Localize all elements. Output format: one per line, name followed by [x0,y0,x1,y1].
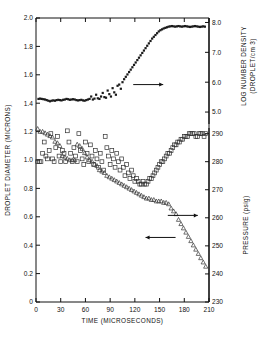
data-point-filled-square [121,81,123,83]
series-droplet-diameter [36,127,208,269]
right-bottom-tick-label: 290 [212,130,223,137]
data-point-filled-square [120,88,122,90]
data-point-filled-square [148,42,150,44]
left-tick-label: 0 [29,298,33,305]
series-log-number-density [37,25,206,102]
data-point-filled-square [93,98,95,100]
data-point-filled-square [133,64,135,66]
data-point-open-square [105,146,109,150]
data-point-filled-square [115,94,117,96]
data-point-filled-square [90,95,92,97]
data-point-open-square [59,160,63,164]
data-point-open-square [112,157,116,161]
left-tick-label: 0.6 [24,213,33,220]
arrow-to-left-axis-diameter-head [194,213,198,217]
data-point-filled-square [135,61,137,63]
right-bottom-axis-title: PRESSURE (psig) [242,196,250,255]
data-point-filled-square [130,69,132,71]
arrow-to-right-axis-pressure [146,235,176,239]
data-point-filled-square [128,71,130,73]
data-point-open-square [103,135,107,139]
left-tick-label: 0.2 [24,270,33,277]
data-point-filled-square [141,52,143,54]
right-top-tick-label: 8.0 [212,19,221,26]
data-point-open-square [93,149,97,153]
data-point-open-square [80,157,84,161]
data-point-open-square [47,149,51,153]
data-point-open-triangle [171,209,175,213]
right-bottom-tick-label: 250 [212,242,223,249]
data-point-open-triangle [184,230,188,234]
left-tick-label: 0.8 [24,185,33,192]
data-point-filled-square [88,98,90,100]
data-point-filled-square [146,45,148,47]
data-point-filled-square [118,83,120,85]
data-point-filled-square [108,93,110,95]
data-point-open-square [95,157,99,161]
data-point-open-square [98,151,102,155]
data-point-open-square [110,149,114,153]
data-point-filled-square [204,26,206,28]
data-point-open-square [65,129,69,133]
data-point-filled-square [131,66,133,68]
right-bottom-tick-label: 270 [212,186,223,193]
x-tick-label: 90 [106,306,114,313]
arrow-to-right-axis-pressure-head [146,235,150,239]
data-point-open-triangle [179,222,183,226]
data-point-filled-square [149,40,151,42]
data-point-open-triangle [186,234,190,238]
data-point-filled-square [143,49,145,51]
data-point-open-square [54,146,58,150]
x-axis-title: TIME (MICROSECONDS) [82,317,164,325]
right-top-axis-subtitle: (DROPLET/cm 3) [249,38,257,94]
arrow-to-left-axis-diameter [168,213,198,217]
right-bottom-tick-label: 260 [212,214,223,221]
data-point-filled-square [112,87,114,89]
data-point-open-triangle [196,252,200,256]
data-point-filled-square [95,94,97,96]
right-top-tick-label: 5.0 [212,108,221,115]
data-point-open-square [74,154,78,158]
data-point-open-square [82,163,86,167]
data-point-filled-square [107,89,109,91]
data-point-open-square [84,140,88,144]
x-tick-label: 210 [203,306,214,313]
data-point-open-square [67,140,71,144]
right-bottom-tick-label: 230 [212,298,223,305]
data-point-open-triangle [201,260,205,264]
data-point-filled-square [123,78,125,80]
data-point-filled-square [105,97,107,99]
right-top-tick-label: 6.0 [212,79,221,86]
right-top-axis-title: LOG NUMBER DENSITY [240,26,247,106]
data-point-open-square [90,154,94,158]
arrow-to-right-axis-density [133,83,163,87]
left-tick-label: 0.4 [24,242,33,249]
data-point-open-triangle [58,144,62,148]
data-point-open-triangle [181,226,185,230]
data-point-filled-square [126,73,128,75]
data-point-filled-square [113,91,115,93]
data-point-open-square [113,165,117,169]
data-point-open-triangle [194,247,198,251]
right-top-tick-label: 7.0 [212,49,221,56]
data-point-open-square [69,151,73,155]
left-axis-title: DROPLET DIAMETER (MICRONS) [4,104,12,215]
figure-panel: 0306090120150180210TIME (MICROSECONDS)00… [0,0,272,344]
data-point-open-square [115,151,119,155]
data-point-filled-square [136,59,138,61]
left-tick-label: 1.2 [24,128,33,135]
right-bottom-tick-label: 280 [212,158,223,165]
data-point-open-square [42,140,46,144]
x-tick-label: 0 [34,306,38,313]
droplet-diameter-pressure-density-chart: 0306090120150180210TIME (MICROSECONDS)00… [0,0,272,344]
data-point-open-square [108,163,112,167]
data-point-open-triangle [199,256,203,260]
data-point-filled-square [125,76,127,78]
left-tick-label: 1.0 [24,156,33,163]
data-point-open-triangle [176,217,180,221]
data-point-filled-square [140,54,142,56]
data-point-filled-square [102,92,104,94]
data-point-open-square [100,160,104,164]
arrow-to-right-axis-density-head [159,83,163,87]
x-tick-label: 120 [129,306,140,313]
